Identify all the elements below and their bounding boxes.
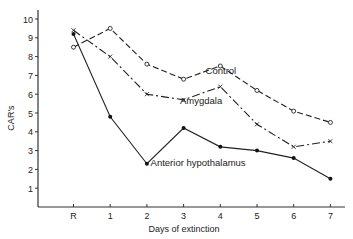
filled-circle-marker xyxy=(255,149,259,153)
y-tick-label: 6 xyxy=(28,90,33,100)
open-circle-marker xyxy=(182,77,186,81)
y-tick-label: 10 xyxy=(23,15,33,25)
open-circle-marker xyxy=(108,26,112,30)
series-label: Control xyxy=(206,65,237,76)
open-circle-marker xyxy=(145,62,149,66)
x-tick-label: 3 xyxy=(181,211,186,221)
y-tick-label: 5 xyxy=(28,109,33,119)
y-tick-label: 1 xyxy=(28,184,33,194)
open-circle-marker xyxy=(255,88,259,92)
x-tick-label: 1 xyxy=(108,211,113,221)
open-circle-marker xyxy=(292,109,296,113)
filled-circle-marker xyxy=(72,32,76,36)
y-tick-label: 3 xyxy=(28,146,33,156)
x-tick-label: 4 xyxy=(218,211,223,221)
filled-circle-marker xyxy=(328,177,332,181)
x-marker xyxy=(292,145,296,149)
open-circle-marker xyxy=(72,45,76,49)
x-tick-label: R xyxy=(70,211,77,221)
y-tick-label: 4 xyxy=(28,127,33,137)
x-tick-label: 7 xyxy=(328,211,333,221)
y-axis-label: CAR's xyxy=(6,105,16,131)
x-marker xyxy=(255,122,259,126)
x-tick-label: 2 xyxy=(144,211,149,221)
y-tick-label: 8 xyxy=(28,52,33,62)
line-chart: 12345678910R1234567Days of extinctionCAR… xyxy=(0,0,353,239)
filled-circle-marker xyxy=(182,126,186,130)
series-line-control xyxy=(74,28,331,122)
y-tick-label: 7 xyxy=(28,71,33,81)
x-marker xyxy=(72,28,76,32)
x-tick-label: 6 xyxy=(291,211,296,221)
x-tick-label: 5 xyxy=(254,211,259,221)
open-circle-marker xyxy=(328,120,332,124)
series-line-amygdala xyxy=(74,30,331,147)
series-label: Anterior hypothalamus xyxy=(151,157,246,168)
filled-circle-marker xyxy=(108,115,112,119)
filled-circle-marker xyxy=(292,156,296,160)
x-marker xyxy=(108,55,112,59)
filled-circle-marker xyxy=(145,162,149,166)
y-tick-label: 2 xyxy=(28,165,33,175)
series-label: Amygdala xyxy=(180,95,223,106)
x-axis-label: Days of extinction xyxy=(148,224,219,234)
y-tick-label: 9 xyxy=(28,33,33,43)
filled-circle-marker xyxy=(218,145,222,149)
